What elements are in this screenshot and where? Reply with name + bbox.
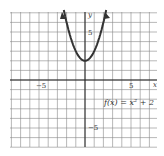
graph-canvas [0,0,164,156]
x-axis-label: x [153,81,157,89]
tick-y-pos5: 5 [88,29,92,37]
tick-x-neg5: −5 [36,82,46,90]
tick-x-pos5: 5 [129,82,133,90]
y-axis-label: y [88,11,92,19]
tick-y-neg5: −5 [88,124,98,132]
function-label: f(x) = x² + 2 [104,98,154,107]
